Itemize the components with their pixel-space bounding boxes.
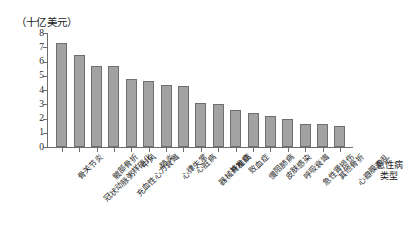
y-tick-label: 0	[39, 143, 44, 153]
y-tick-label: 6	[39, 57, 44, 67]
bar	[143, 81, 154, 147]
y-tick: 7	[47, 47, 48, 48]
y-tick-label: 7	[39, 43, 44, 53]
x-category-label: 髋部骨折	[111, 153, 139, 181]
x-tick-mark	[62, 148, 63, 152]
x-tick-mark	[166, 148, 167, 152]
x-category-label: 心脏病	[195, 153, 218, 176]
y-tick: 6	[47, 62, 48, 63]
x-axis-title-line: 类型	[362, 171, 416, 182]
x-category-label: 充血性心力衰竭	[135, 153, 180, 198]
bar	[126, 79, 137, 147]
x-category-label: 慢阻肺病	[267, 153, 295, 181]
x-category-label: 器械并发症	[218, 153, 252, 187]
x-category-label: 中风	[141, 153, 158, 170]
y-tick-label: 3	[39, 100, 44, 110]
x-tick-mark	[236, 148, 237, 152]
bar	[230, 110, 241, 147]
x-category-label: 心律失常	[180, 153, 208, 181]
bar	[265, 116, 276, 147]
x-tick-mark	[305, 148, 306, 152]
x-tick-mark	[218, 148, 219, 152]
bar	[334, 126, 345, 147]
bar	[195, 103, 206, 147]
x-tick-mark	[131, 148, 132, 152]
bar	[56, 43, 67, 147]
y-tick: 8	[47, 33, 48, 34]
x-category-label: 败血症	[248, 153, 271, 176]
x-category-label: 骨关节炎	[76, 153, 104, 181]
bar	[282, 119, 293, 148]
x-category-label: 冠状动脉粥样硬化	[103, 153, 154, 204]
x-tick-mark	[270, 148, 271, 152]
bar	[178, 86, 189, 147]
y-tick-label: 5	[39, 72, 44, 82]
bar	[161, 85, 172, 147]
x-tick-mark	[149, 148, 150, 152]
plot-area: 012345678	[47, 33, 353, 148]
x-tick-mark	[323, 148, 324, 152]
x-category-label: 脊椎病	[230, 153, 253, 176]
x-tick-mark	[183, 148, 184, 152]
y-tick: 2	[47, 119, 48, 120]
chart-figure: （十亿美元） 012345678 骨关节炎冠状动脉粥样硬化髋部骨折充血性心力衰竭…	[0, 0, 420, 240]
x-category-label: 急性肾损伤	[322, 153, 356, 187]
y-tick: 4	[47, 90, 48, 91]
x-category-label: 其他骨折	[337, 153, 365, 181]
x-tick-mark	[340, 148, 341, 152]
y-tick-label: 4	[39, 86, 44, 96]
y-tick: 0	[47, 147, 48, 148]
bar	[213, 104, 224, 147]
bar	[248, 113, 259, 147]
x-category-label: 皮肤感染	[285, 153, 313, 181]
y-tick-label: 1	[39, 129, 44, 139]
x-axis-title-line: 急性病	[362, 160, 416, 171]
x-tick-mark	[288, 148, 289, 152]
bar	[91, 66, 102, 147]
bar	[300, 124, 311, 148]
x-category-label: 肺炎	[158, 153, 175, 170]
y-tick: 1	[47, 133, 48, 134]
y-tick: 3	[47, 104, 48, 105]
x-tick-mark	[79, 148, 80, 152]
y-axis-title: （十亿美元）	[16, 14, 77, 29]
x-category-label: 呼吸衰竭	[302, 153, 330, 181]
y-tick: 5	[47, 76, 48, 77]
x-tick-mark	[253, 148, 254, 152]
y-tick-label: 2	[39, 114, 44, 124]
bar	[74, 55, 85, 147]
x-tick-mark	[114, 148, 115, 152]
x-axis-title: 急性病类型	[362, 160, 416, 183]
bar	[317, 124, 328, 148]
x-tick-mark	[201, 148, 202, 152]
x-tick-mark	[97, 148, 98, 152]
bar	[108, 66, 119, 147]
y-tick-label: 8	[39, 29, 44, 39]
